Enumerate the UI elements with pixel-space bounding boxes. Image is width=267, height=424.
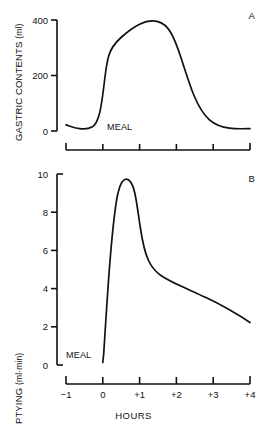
- panel-b-ytick-label-8: 8: [43, 207, 48, 218]
- panel-b-ytick-label-2: 2: [43, 321, 48, 332]
- panel-b-xtick-label--1: −1: [61, 389, 72, 400]
- panel-a-meal-label: MEAL: [107, 122, 132, 132]
- panel-b-xtick-label-1: +1: [134, 389, 145, 400]
- panel-a: A GASTRIC CONTENTS (ml) 400 200 0: [0, 0, 267, 170]
- panel-b-xtick-label-0: 0: [100, 389, 105, 400]
- panel-b-xtick-label-4: +4: [245, 389, 256, 400]
- panel-b-x-axis-title: HOURS: [0, 410, 267, 421]
- panel-b-ytick-label-10: 10: [37, 169, 48, 180]
- panel-b-xtick-label-3: +3: [208, 389, 219, 400]
- panel-b-xtick-label-2: +2: [171, 389, 182, 400]
- panel-a-ytick-label-400: 400: [32, 15, 48, 26]
- panel-b-plot-area: 10 8 6 4 2 0 MEAL −1 0 +1: [0, 160, 267, 424]
- panel-b-curve: [103, 179, 250, 362]
- panel-a-ytick-label-200: 200: [32, 70, 48, 81]
- panel-b: B RATE OF GASTRIC EMPTYING (ml·min) 10 8…: [0, 160, 267, 424]
- panel-a-ytick-label-0: 0: [43, 126, 48, 137]
- gastric-emptying-figure: A GASTRIC CONTENTS (ml) 400 200 0: [0, 0, 267, 424]
- panel-a-svg: 400 200 0 MEAL: [0, 0, 267, 170]
- panel-b-ytick-label-6: 6: [43, 245, 48, 256]
- panel-b-ytick-label-4: 4: [43, 283, 48, 294]
- panel-a-curve: [66, 21, 250, 129]
- panel-b-svg: 10 8 6 4 2 0 MEAL −1 0 +1: [0, 160, 267, 424]
- panel-a-plot-area: 400 200 0 MEAL: [0, 0, 267, 170]
- panel-b-meal-label: MEAL: [66, 350, 91, 360]
- panel-b-ytick-label-0: 0: [43, 360, 48, 371]
